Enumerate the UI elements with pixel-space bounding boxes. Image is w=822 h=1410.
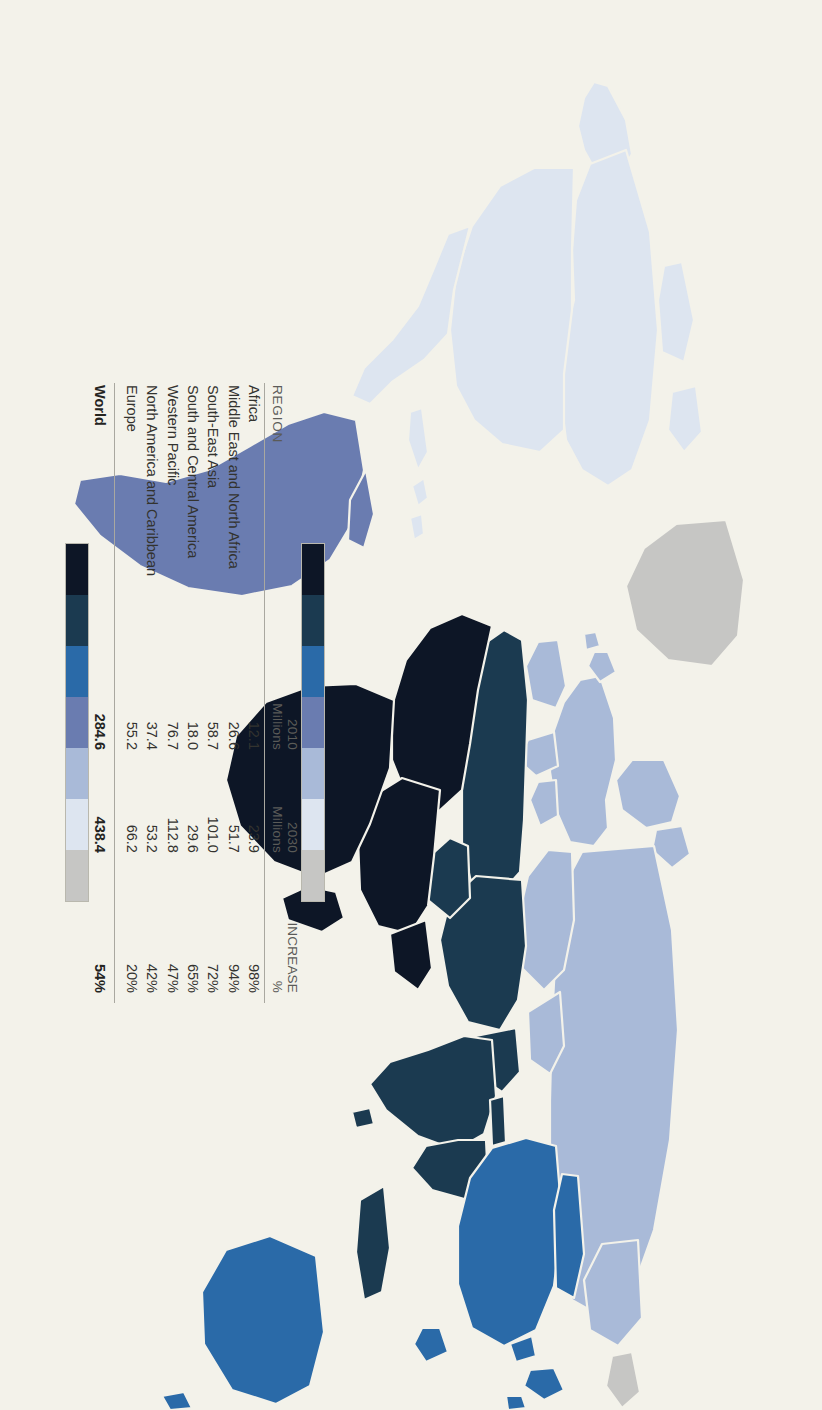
color-swatch-4 [302,748,324,799]
cell-increase: 65% [182,863,202,1003]
legend-panel: REGION 2010 Millions 2030 Millions INCRE… [65,383,325,1003]
color-swatch-6 [302,850,324,901]
column-header-2010-unit: Millions [270,703,285,750]
color-swatch-1 [302,595,324,646]
cell-2010-world: 284.6 [89,657,114,760]
cell-2030: 29.6 [182,760,202,863]
cell-2010: 37.4 [141,657,161,760]
cell-2030: 112.8 [162,760,182,863]
color-swatch-5 [66,799,88,850]
cell-2030: 51.7 [223,760,243,863]
table-body: Africa12.123.998%Middle East and North A… [89,383,265,1003]
table-row: Europe55.266.220% [121,383,141,1003]
region-data-table: REGION 2010 Millions 2030 Millions INCRE… [89,383,301,1003]
table-row: South and Central America18.029.665% [182,383,202,1003]
cell-region: South-East Asia [203,383,223,657]
cell-region: Middle East and North Africa [223,383,243,657]
column-header-2010-year: 2010 [285,719,300,750]
cell-2010: 26.6 [223,657,243,760]
cell-increase: 20% [121,863,141,1003]
cell-increase: 42% [141,863,161,1003]
cell-2010: 12.1 [243,657,264,760]
column-header-increase: INCREASE % [264,863,301,1003]
cell-2010: 76.7 [162,657,182,760]
column-header-increase-label: INCREASE [285,922,300,993]
cell-region: Europe [121,383,141,657]
page-canvas: REGION 2010 Millions 2030 Millions INCRE… [0,0,822,1410]
table-spacer [114,383,121,1003]
column-header-2030: 2030 Millions [264,760,301,863]
color-swatch-3 [66,697,88,748]
color-ramp-bottom [65,543,89,902]
table-row: North America and Caribbean37.453.242% [141,383,161,1003]
color-swatch-0 [302,544,324,595]
color-swatch-1 [66,595,88,646]
cell-region: Western Pacific [162,383,182,657]
cell-increase: 47% [162,863,182,1003]
cell-region: Africa [243,383,264,657]
table-row: Africa12.123.998% [243,383,264,1003]
color-swatch-5 [302,799,324,850]
cell-2030: 66.2 [121,760,141,863]
cell-region: North America and Caribbean [141,383,161,657]
color-swatch-0 [66,544,88,595]
cell-2010: 58.7 [203,657,223,760]
color-swatch-6 [66,850,88,901]
column-header-region: REGION [264,383,301,657]
cell-region: South and Central America [182,383,202,657]
table-row-world-total: World284.6438.454% [89,383,114,1003]
table-row: South-East Asia58.7101.072% [203,383,223,1003]
cell-2030: 101.0 [203,760,223,863]
color-ramp-top [301,543,325,902]
color-swatch-4 [66,748,88,799]
infographic-stage: REGION 2010 Millions 2030 Millions INCRE… [0,0,822,1410]
cell-2030: 53.2 [141,760,161,863]
cell-2010: 55.2 [121,657,141,760]
cell-increase: 98% [243,863,264,1003]
color-swatch-2 [302,646,324,697]
color-swatch-2 [66,646,88,697]
column-header-2030-year: 2030 [285,822,300,853]
table-row: Western Pacific76.7112.847% [162,383,182,1003]
column-header-2010: 2010 Millions [264,657,301,760]
table-header-row: REGION 2010 Millions 2030 Millions INCRE… [264,383,301,1003]
cell-increase: 72% [203,863,223,1003]
cell-region-world: World [89,383,114,657]
cell-2030-world: 438.4 [89,760,114,863]
cell-increase: 94% [223,863,243,1003]
table-row: Middle East and North Africa26.651.794% [223,383,243,1003]
cell-increase-world: 54% [89,863,114,1003]
column-header-increase-unit: % [270,981,285,993]
color-swatch-3 [302,697,324,748]
column-header-2030-unit: Millions [270,806,285,853]
cell-2010: 18.0 [182,657,202,760]
cell-2030: 23.9 [243,760,264,863]
